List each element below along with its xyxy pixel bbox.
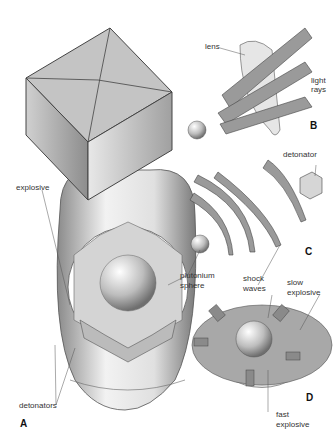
panel-a-bomb — [57, 168, 196, 410]
panel-letter-d: D — [306, 392, 313, 403]
label-slow: slow — [287, 278, 303, 287]
label-explosive: explosive — [16, 183, 49, 192]
label-lens: lens — [205, 42, 220, 51]
panel-d-hemisphere — [192, 304, 332, 387]
panel-c-shockwaves — [190, 160, 322, 255]
label-waves: waves — [243, 284, 266, 293]
label-detonator: detonator — [283, 150, 317, 159]
label-fast: fast — [276, 410, 289, 419]
panel-letter-a: A — [20, 418, 27, 429]
label-plutonium: plutonium — [180, 271, 215, 280]
label-shock: shock — [243, 274, 264, 283]
panel-letter-c: C — [305, 246, 312, 257]
diagram-canvas — [0, 0, 336, 448]
label-fast-explosive: explosive — [276, 420, 309, 429]
label-slow-explosive: explosive — [287, 288, 320, 297]
label-sphere: sphere — [180, 281, 204, 290]
panel-letter-b: B — [310, 120, 317, 131]
label-light: light — [311, 76, 326, 85]
label-detonators: detonators — [19, 401, 57, 410]
label-rays: rays — [311, 85, 326, 94]
